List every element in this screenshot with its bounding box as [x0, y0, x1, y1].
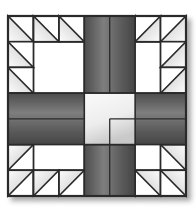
quadrant-center-square — [33, 42, 84, 93]
quilt-block-canvas — [0, 0, 196, 210]
quilt-block — [8, 16, 186, 196]
quilt-block-image — [0, 0, 196, 210]
